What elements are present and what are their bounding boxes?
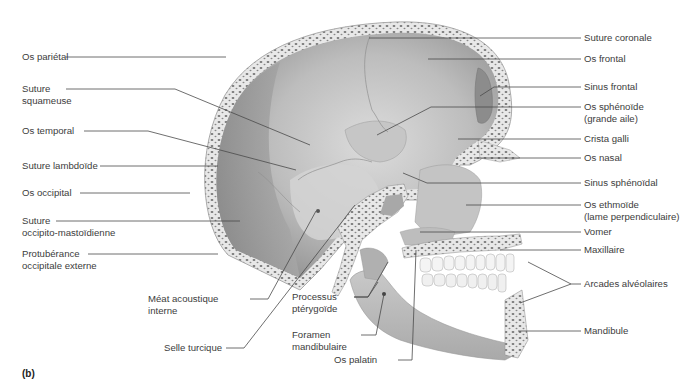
label-protuberance-occipitale-externe: Protubérance occipitale externe (22, 248, 97, 271)
label-sinus-frontal: Sinus frontal (584, 81, 637, 93)
label-selle-turcique: Selle turcique (164, 342, 222, 354)
label-os-sphenoide: Os sphénoïde (grande aile) (584, 101, 644, 124)
label-os-nasal: Os nasal (584, 152, 622, 164)
label-meat-acoustique-interne: Méat acoustique interne (148, 293, 218, 316)
internal-acoustic-meatus-dot (316, 209, 320, 213)
label-processus-pterygoide: Processus ptérygoïde (292, 291, 337, 314)
label-suture-lambdoide: Suture lambdoïde (22, 160, 98, 172)
label-suture-occipito-mastoidienne: Suture occipito-mastoïdienne (22, 215, 115, 238)
label-os-palatin: Os palatin (334, 354, 377, 366)
label-crista-galli: Crista galli (584, 133, 629, 145)
teeth-lower (422, 274, 506, 292)
label-os-frontal: Os frontal (584, 53, 626, 65)
label-maxillaire: Maxillaire (584, 244, 625, 256)
label-os-occipital: Os occipital (22, 187, 72, 199)
label-vomer: Vomer (584, 226, 612, 238)
mandible-symphysis (505, 290, 528, 358)
label-mandibule: Mandibule (584, 325, 628, 337)
ethmoid-plate-shape (415, 165, 482, 238)
label-suture-squameuse: Suture squameuse (22, 83, 72, 106)
label-arcades-alveolaires: Arcades alvéolaires (584, 278, 668, 290)
label-sinus-sphenoidal: Sinus sphénoïdal (584, 177, 658, 189)
label-os-parietal: Os pariétal (22, 51, 68, 63)
label-os-ethmoide: Os ethmoïde (lame perpendiculaire) (584, 199, 679, 222)
panel-label: (b) (22, 368, 35, 379)
label-suture-coronale: Suture coronale (584, 32, 652, 44)
label-foramen-mandibulaire: Foramen mandibulaire (292, 329, 347, 352)
teeth-upper (420, 254, 514, 272)
label-os-temporal: Os temporal (22, 125, 74, 137)
